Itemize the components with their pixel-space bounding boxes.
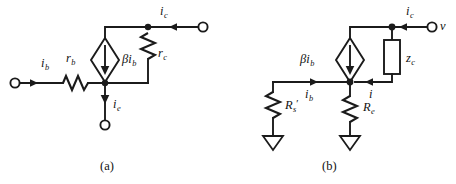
label-re: Re xyxy=(363,101,375,114)
base-terminal-circle xyxy=(10,78,19,87)
resistor-rs-zigzag xyxy=(266,92,280,118)
center-node-dot-b xyxy=(347,79,354,86)
ib-arrowhead-b xyxy=(310,78,318,86)
ic-arrowhead-a xyxy=(169,23,177,31)
i-arrowhead-b xyxy=(365,78,373,86)
panel-b-graphics xyxy=(263,22,437,150)
label-ic-b: ic xyxy=(406,5,413,18)
wire-zc-to-node xyxy=(355,74,392,82)
output-terminal-circle-b xyxy=(427,22,436,31)
label-zc: zc xyxy=(406,52,415,65)
label-rb: rb xyxy=(66,52,75,65)
label-ib-a: ib xyxy=(41,57,49,70)
ie-arrowhead xyxy=(101,95,110,104)
label-beta-ib-b: βib xyxy=(300,53,314,66)
panel-a-graphics xyxy=(10,22,207,129)
label-ib-b: ib xyxy=(305,88,313,101)
ground-symbol-re xyxy=(340,136,360,150)
label-ie: ie xyxy=(113,98,120,111)
ib-arrowhead xyxy=(30,79,38,87)
caption-a: (a) xyxy=(100,160,114,173)
caption-b: (b) xyxy=(322,160,337,173)
label-i-b: i xyxy=(369,88,373,101)
circuit-canvas xyxy=(0,0,456,184)
label-ic-a: ic xyxy=(160,5,167,18)
collector-terminal-circle-a xyxy=(198,22,207,31)
emitter-terminal-circle-a xyxy=(100,120,109,129)
collector-node-dot-a xyxy=(145,24,151,30)
resistor-rb-zigzag xyxy=(63,76,88,90)
label-beta-ib-a: βib xyxy=(122,53,136,66)
label-rc: rc xyxy=(158,47,167,60)
label-v-b: v xyxy=(440,20,446,33)
wire-source-top-b xyxy=(350,27,392,38)
label-rs-prime: Rs′ xyxy=(285,99,299,112)
resistor-re-zigzag xyxy=(343,96,357,122)
circuit-figure: ib rb ic rc ie βib (a) ib i ic v zc Rs′ … xyxy=(0,0,456,184)
ic-arrowhead-b xyxy=(399,23,407,31)
impedance-zc-box xyxy=(384,40,400,74)
ground-symbol-rs xyxy=(263,136,283,150)
resistor-rc-zigzag xyxy=(141,33,155,59)
